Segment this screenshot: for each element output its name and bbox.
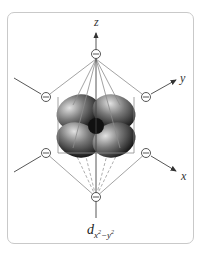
x-axis-label: x [180,169,187,183]
ligand-back-left-icon [42,93,51,102]
y-axis-label: y [179,71,186,85]
orbital-diagram: z y x [0,0,201,253]
x-axis-left [14,156,41,172]
y-axis-left [14,78,41,94]
z-axis-label: z [93,15,99,29]
ligand-front-right-icon [142,149,151,158]
ligand-top-icon [92,50,101,59]
ligand-front-left-icon [42,149,51,158]
ligand-back-right-icon [142,93,151,102]
y-axis-right [151,80,176,94]
orbital-caption: dx2−y2 [0,222,201,240]
x-axis-right [151,156,176,171]
ligand-bottom-icon [92,193,101,202]
